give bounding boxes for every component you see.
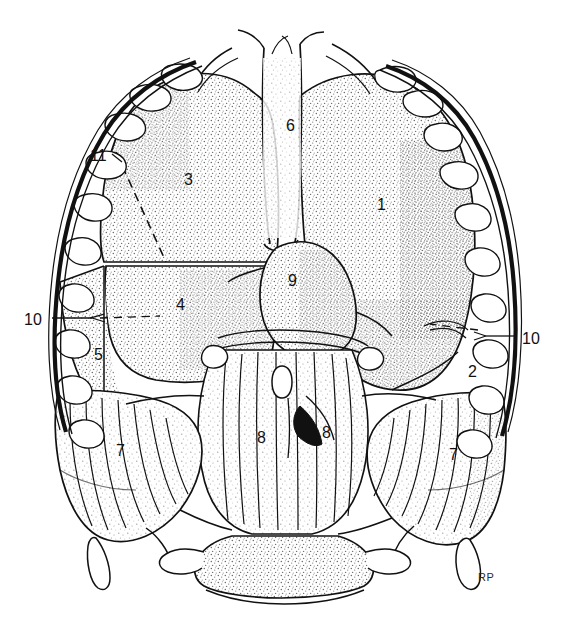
label-7-right: 7 <box>449 447 458 463</box>
anatomy-figure: Punctured <box>0 0 562 620</box>
diaphragm-crus-group <box>195 345 375 545</box>
label-2: 2 <box>468 364 477 380</box>
illustration-canvas <box>0 0 562 620</box>
label-1: 1 <box>377 197 386 213</box>
label-11: 11 <box>90 148 107 164</box>
label-5: 5 <box>94 347 103 363</box>
label-10-right: 10 <box>522 331 540 347</box>
label-4: 4 <box>176 297 185 313</box>
label-3: 3 <box>184 172 193 188</box>
label-10-left: 10 <box>24 312 42 328</box>
label-6: 6 <box>286 118 295 134</box>
label-8-right: 8 <box>322 425 331 441</box>
artist-signature: RP <box>478 571 494 583</box>
label-9: 9 <box>288 273 297 289</box>
esophageal-hiatus <box>272 366 292 398</box>
label-7-left: 7 <box>116 443 125 459</box>
label-8-left: 8 <box>257 430 266 446</box>
